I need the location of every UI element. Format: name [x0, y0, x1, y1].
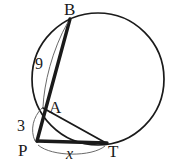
geometry-figure: B A P T 9 3 x	[0, 0, 176, 164]
tangent-segment-PT	[37, 141, 107, 143]
secant-segment-PB	[37, 19, 70, 141]
geometry-canvas	[0, 0, 176, 164]
main-circle	[32, 13, 164, 145]
point-label-B: B	[64, 1, 75, 18]
measure-label-PA: 3	[17, 118, 25, 134]
measure-label-PT: x	[66, 146, 73, 162]
point-label-P: P	[18, 142, 27, 159]
point-label-T: T	[108, 143, 118, 160]
measure-label-AB: 9	[35, 56, 43, 72]
point-label-A: A	[49, 99, 61, 116]
